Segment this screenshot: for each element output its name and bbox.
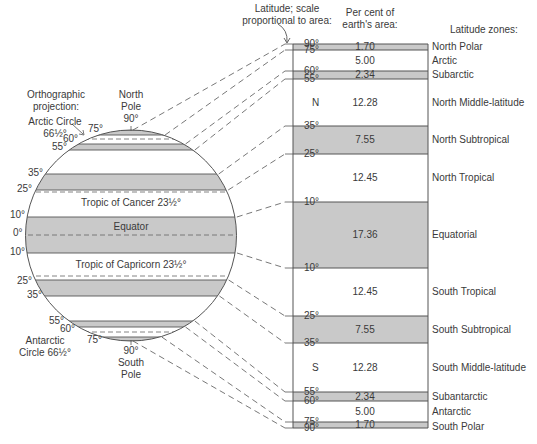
header-line: Orthographic bbox=[20, 89, 92, 101]
globe-latitude-tick: 10° bbox=[10, 246, 25, 258]
boundary-latitude-label: 35° bbox=[304, 337, 319, 349]
latitude-zones-diagram: Latitude; scale proportional to area: Pe… bbox=[0, 0, 537, 444]
zone-name: Antarctic bbox=[432, 406, 471, 418]
boundary-latitude-label: 35° bbox=[304, 120, 319, 132]
percent-value: 12.45 bbox=[340, 172, 390, 184]
boundary-latitude-label: 10° bbox=[304, 196, 319, 208]
boundary-latitude-label: 55° bbox=[304, 73, 319, 85]
percent-area-header: Per cent of earth's area: bbox=[330, 7, 410, 31]
percent-value: 7.55 bbox=[340, 324, 390, 336]
zone-name: North Middle-latitude bbox=[432, 97, 524, 109]
label-line: South bbox=[108, 357, 154, 369]
boundary-latitude-label: 10° bbox=[304, 262, 319, 274]
percent-value: 17.36 bbox=[340, 229, 390, 241]
percent-value: 12.28 bbox=[340, 362, 390, 374]
header-line: earth's area: bbox=[330, 19, 410, 31]
tropic-of-cancer-label: Tropic of Cancer 23½° bbox=[61, 197, 201, 209]
boundary-latitude-label: 75° bbox=[304, 44, 319, 56]
zone-name: South Polar bbox=[432, 421, 484, 433]
globe-zone-band bbox=[20, 280, 250, 296]
zone-name: South Subtropical bbox=[432, 324, 511, 336]
zone-name: Subarctic bbox=[432, 69, 474, 81]
globe-latitude-tick: 75° bbox=[88, 123, 103, 135]
zone-name: Arctic bbox=[432, 55, 457, 67]
zone-name: Equatorial bbox=[432, 229, 477, 241]
globe-latitude-tick: 60° bbox=[60, 323, 75, 335]
percent-value: 2.34 bbox=[340, 69, 390, 81]
header-line: Latitude; scale bbox=[232, 3, 342, 15]
boundary-latitude-label: 60° bbox=[304, 395, 319, 407]
globe-shaded-bands bbox=[20, 130, 250, 341]
label-line: Arctic Circle bbox=[20, 116, 90, 128]
globe-latitude-tick: 55° bbox=[52, 141, 67, 153]
header-line: proportional to area: bbox=[232, 15, 342, 27]
zone-name: South Tropical bbox=[432, 286, 496, 298]
boundary-latitude-label: 25° bbox=[304, 310, 319, 322]
percent-value: 1.70 bbox=[340, 41, 390, 53]
percent-value: 5.00 bbox=[340, 406, 390, 418]
latitude-scale-header: Latitude; scale proportional to area: bbox=[232, 3, 342, 27]
header-line: Per cent of bbox=[330, 7, 410, 19]
latitude-zones-header: Latitude zones: bbox=[450, 24, 518, 36]
boundary-latitude-label: 90° bbox=[304, 422, 319, 434]
label-line: 90° bbox=[108, 113, 154, 125]
zone-name: North Polar bbox=[432, 41, 483, 53]
equator-label: Equator bbox=[101, 221, 161, 233]
south-pole-label: 90° South Pole bbox=[108, 345, 154, 381]
zone-name: Subantarctic bbox=[432, 391, 488, 403]
zone-name: South Middle-latitude bbox=[432, 362, 526, 374]
zone-name: North Tropical bbox=[432, 172, 494, 184]
label-line: Circle 66½° bbox=[10, 347, 80, 359]
percent-value: 2.34 bbox=[340, 391, 390, 403]
antarctic-circle-label: Antarctic Circle 66½° bbox=[10, 335, 80, 359]
label-line: 66½° bbox=[20, 128, 90, 140]
boundary-latitude-label: 25° bbox=[304, 148, 319, 160]
header-line: projection: bbox=[20, 101, 92, 113]
globe-latitude-tick: 35° bbox=[27, 289, 42, 301]
globe-latitude-tick: 25° bbox=[17, 275, 32, 287]
north-pole-label: North Pole 90° bbox=[108, 89, 154, 125]
globe-latitude-tick: 0° bbox=[13, 227, 23, 239]
percent-value: 5.00 bbox=[340, 55, 390, 67]
label-line: 90° bbox=[108, 345, 154, 357]
hemisphere-label: N bbox=[312, 97, 319, 109]
tropic-of-capricorn-label: Tropic of Capricorn 23½° bbox=[56, 259, 206, 271]
percent-value: 12.28 bbox=[340, 97, 390, 109]
globe-latitude-tick: 25° bbox=[17, 183, 32, 195]
globe-latitude-tick: 35° bbox=[28, 167, 43, 179]
arctic-circle-label: Arctic Circle 66½° bbox=[20, 116, 90, 140]
globe-zone-band bbox=[20, 174, 250, 190]
label-line: North bbox=[108, 89, 154, 101]
percent-value: 1.70 bbox=[340, 419, 390, 431]
label-line: Pole bbox=[108, 369, 154, 381]
label-line: Pole bbox=[108, 101, 154, 113]
globe-latitude-tick: 10° bbox=[10, 209, 25, 221]
hemisphere-label: S bbox=[312, 362, 319, 374]
percent-value: 12.45 bbox=[340, 286, 390, 298]
percent-value: 7.55 bbox=[340, 134, 390, 146]
projection-label: Orthographic projection: bbox=[20, 89, 92, 113]
label-line: Antarctic bbox=[10, 335, 80, 347]
zone-name: North Subtropical bbox=[432, 134, 509, 146]
globe-latitude-tick: 75° bbox=[87, 334, 102, 346]
